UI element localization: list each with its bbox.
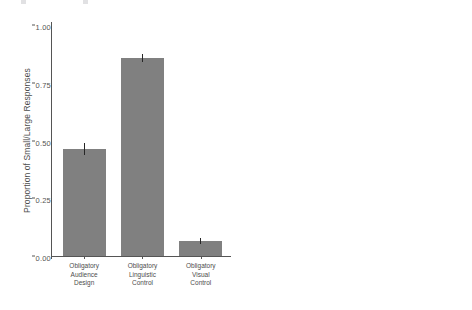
y-tick-left-0: 1.00 (36, 16, 51, 34)
y-tick-mark-icon (32, 25, 35, 26)
y-tick-left-2: 0.50 (36, 132, 51, 150)
panel-left: Proportion of Small/Large Responses 1.00… (0, 0, 236, 310)
plot-area-left: 1.00 0.75 0.50 0.25 0.00 (55, 25, 230, 256)
x-tick-line: Obligatory (55, 262, 113, 271)
x-axis-ticks-left: Obligatory Audience Design Obligatory Li… (55, 256, 230, 306)
y-tick-mark-icon (32, 256, 35, 257)
y-tick-left-4: 0.00 (36, 247, 51, 265)
error-bar (142, 54, 143, 62)
y-tick-left-1: 0.75 (36, 74, 51, 92)
x-tick-line: Audience (55, 271, 113, 280)
y-tick-mark-icon (32, 82, 35, 83)
bar-group (121, 25, 164, 256)
error-bar (84, 143, 85, 155)
y-axis-line-left (51, 22, 52, 259)
x-tick-mark-icon (84, 256, 85, 259)
x-tick-line: Control (113, 279, 171, 288)
figure: Proportion of Small/Large Responses 1.00… (0, 0, 472, 310)
panel-right: Proportion of Bare Nouns 1.00 0.75 0.50 … (236, 0, 472, 310)
x-tick-mark-icon (142, 256, 143, 259)
x-tick-mark-icon (201, 256, 202, 259)
bar[interactable] (63, 149, 106, 256)
x-tick-left-1: Obligatory Linguistic Control (113, 256, 171, 288)
x-tick-line: Design (55, 279, 113, 288)
y-tick-mark-icon (32, 198, 35, 199)
bars-left (55, 25, 230, 256)
x-tick-line: Visual (172, 271, 230, 280)
x-tick-line: Obligatory (113, 262, 171, 271)
x-tick-left-0: Obligatory Audience Design (55, 256, 113, 288)
bar-group (179, 25, 222, 256)
error-bar (200, 238, 201, 244)
bar-group (63, 25, 106, 256)
y-tick-mark-icon (32, 140, 35, 141)
x-tick-line: Control (172, 279, 230, 288)
x-tick-line: Obligatory (172, 262, 230, 271)
bar[interactable] (121, 58, 164, 256)
y-tick-left-3: 0.25 (36, 189, 51, 207)
x-tick-line: Linguistic (113, 271, 171, 280)
x-tick-left-2: Obligatory Visual Control (172, 256, 230, 288)
